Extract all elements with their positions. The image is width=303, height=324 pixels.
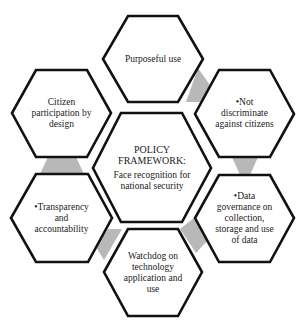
node-text: Purposeful use <box>125 54 181 65</box>
node-text: technology <box>132 262 174 273</box>
center-title-line2: FRAMEWORK: <box>118 155 186 166</box>
node-text: and <box>55 213 69 224</box>
node-text: of data <box>231 235 257 246</box>
node-text: Watchdog on <box>128 251 178 262</box>
node-text: •Transparency <box>34 202 89 213</box>
node-text: storage and use <box>215 224 274 235</box>
node-text: collection, <box>225 213 265 224</box>
node-transparency: •Transparency and accountability <box>11 174 112 262</box>
node-text: discriminate <box>221 108 268 119</box>
node-text: use <box>147 284 160 295</box>
node-purposeful-use: Purposeful use <box>103 16 203 102</box>
node-data-governance: •Data governance on collection, storage … <box>195 175 294 262</box>
node-text: accountability <box>35 224 89 235</box>
node-text: Citizen <box>48 97 75 108</box>
connector-right <box>232 157 258 175</box>
node-text: against citizens <box>215 119 273 130</box>
policy-framework-diagram: Purposeful use Citizen participation by … <box>0 0 303 324</box>
node-watchdog: Watchdog on technology application and u… <box>104 229 202 316</box>
node-text: design <box>49 119 74 130</box>
center-subtitle-line1: Face recognition for <box>113 170 190 181</box>
center-title-line1: POLICY <box>134 144 170 155</box>
center-subtitle-line2: national security <box>120 181 183 192</box>
node-text: governance on <box>217 202 273 213</box>
node-text: participation by <box>32 108 92 119</box>
node-text: •Data <box>234 191 255 202</box>
node-text: •Not <box>236 97 254 108</box>
connector-left <box>40 157 84 174</box>
node-text: application and <box>124 273 182 284</box>
